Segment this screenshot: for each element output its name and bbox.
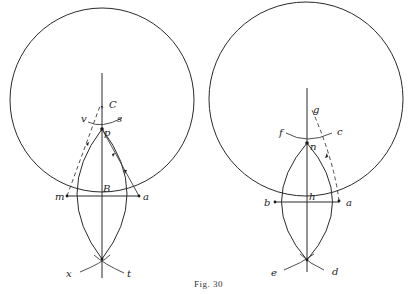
left-figure: C v s p B m a x t [10,8,194,279]
label-h: h [309,191,315,202]
left-arc-t [94,255,124,273]
right-figure: g f c n h b a e d [209,2,403,278]
right-point-lower-intersection [306,259,309,262]
label-a-right: a [346,197,352,208]
left-point-lower-intersection [101,258,104,261]
right-point-b [274,201,277,204]
label-n: n [310,141,316,152]
label-g: g [313,104,319,115]
label-e: e [271,267,277,278]
figure-canvas: C v s p B m a x t g f c n h b a [0,0,413,294]
left-lens-arc-left [77,129,102,259]
label-b: b [264,197,270,208]
label-d: d [332,266,338,277]
right-point-n [305,141,309,145]
left-marker-c [101,106,103,109]
label-p: p [104,127,111,138]
left-point-m [66,195,69,198]
label-s: s [117,113,122,124]
label-C: C [109,99,117,110]
label-x: x [66,268,72,279]
figure-caption: Fig. 30 [194,279,223,289]
label-a-left: a [143,191,149,202]
left-lens-arc-right [102,129,127,259]
right-arc-f-c [286,133,332,139]
left-arrow-marker-lower [112,153,115,157]
label-c: c [337,126,343,137]
label-v: v [81,113,87,124]
label-t: t [127,268,132,279]
right-arrow-marker [325,153,328,158]
right-main-circle [209,2,403,196]
left-point-a [138,195,141,198]
label-B: B [102,183,110,194]
right-dashed-line-a-g [312,110,339,201]
label-m: m [55,191,64,202]
label-f: f [278,127,285,138]
right-point-a [338,200,341,203]
